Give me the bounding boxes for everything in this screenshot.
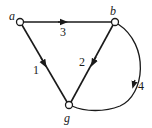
- edge-label-2: 2: [79, 55, 85, 69]
- graph-diagram: 3 1 2 4 a b g: [0, 0, 152, 128]
- edge-3: 3: [23, 22, 112, 39]
- node-label-a: a: [9, 9, 15, 23]
- arrow-icon: [134, 80, 136, 85]
- node-label-g: g: [64, 111, 70, 125]
- node-g: g: [64, 102, 73, 126]
- node-label-b: b: [110, 4, 116, 18]
- node-b: b: [110, 4, 119, 26]
- edge-label-1: 1: [33, 63, 39, 77]
- edge-label-4: 4: [138, 79, 144, 93]
- edge-label-3: 3: [60, 25, 66, 39]
- edge-2: 2: [71, 25, 113, 102]
- node-a: a: [9, 9, 24, 26]
- arrow-icon: [41, 58, 45, 64]
